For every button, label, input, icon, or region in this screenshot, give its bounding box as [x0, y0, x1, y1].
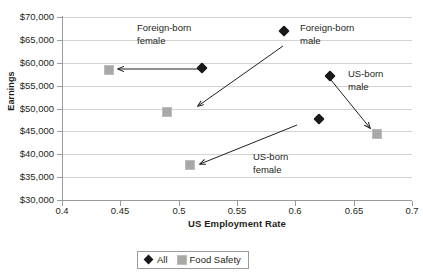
- x-axis-title: US Employment Rate: [62, 218, 412, 229]
- legend-label: Food Safety: [190, 254, 241, 265]
- legend-entry: Food Safety: [177, 254, 241, 265]
- y-axis-tick-label: $65,000: [20, 35, 54, 45]
- annotation-line: Foreign-born: [300, 22, 354, 35]
- y-axis-tick-label: $55,000: [20, 81, 54, 91]
- annotation-line: female: [137, 35, 191, 48]
- annotation-label: Foreign-bornfemale: [137, 22, 191, 47]
- y-axis-tick-label: $60,000: [20, 58, 54, 68]
- gridline: [62, 17, 412, 18]
- gridline: [62, 131, 412, 132]
- y-axis-tick-label: $40,000: [20, 149, 54, 159]
- gridline: [62, 177, 412, 178]
- y-axis-title: Earnings: [6, 56, 16, 126]
- data-point-diamond: [196, 63, 207, 74]
- data-point-square: [104, 65, 114, 75]
- x-axis-tick-label: 0.55: [217, 205, 257, 216]
- y-axis-tick-label: $45,000: [20, 126, 54, 136]
- y-axis-tick-label: $30,000: [20, 195, 54, 205]
- y-axis-tick-label: $50,000: [20, 104, 54, 114]
- x-axis-tick-label: 0.5: [159, 205, 199, 216]
- annotation-label: US-bornfemale: [253, 151, 288, 176]
- x-axis-tick-label: 0.7: [392, 205, 423, 216]
- legend-diamond-icon: [144, 255, 154, 265]
- annotation-arrows: [0, 0, 423, 277]
- gridline: [62, 109, 412, 110]
- x-axis-tick-label: 0.45: [100, 205, 140, 216]
- data-point-square: [372, 129, 382, 139]
- annotation-label: Foreign-bornmale: [300, 22, 354, 47]
- gridline: [62, 63, 412, 64]
- annotation-line: US-born: [348, 68, 383, 81]
- scatter-chart: $30,000$35,000$40,000$45,000$50,000$55,0…: [0, 0, 423, 277]
- annotation-line: male: [300, 35, 354, 48]
- annotation-line: US-born: [253, 151, 288, 164]
- data-point-diamond: [325, 70, 336, 81]
- annotation-line: Foreign-born: [137, 22, 191, 35]
- x-axis-tick-label: 0.6: [275, 205, 315, 216]
- data-point-diamond: [278, 25, 289, 36]
- data-point-square: [162, 107, 172, 117]
- annotation-line: male: [348, 81, 383, 94]
- annotation-label: US-bornmale: [348, 68, 383, 93]
- chart-legend: AllFood Safety: [137, 251, 249, 269]
- foreign-born-male-arrow: [198, 46, 283, 106]
- data-point-diamond: [313, 113, 324, 124]
- legend-entry: All: [145, 254, 168, 265]
- y-axis-line: [62, 16, 63, 201]
- x-axis-line: [62, 200, 412, 201]
- annotation-line: female: [253, 164, 288, 177]
- legend-label: All: [157, 254, 168, 265]
- gridline: [62, 40, 412, 41]
- x-axis-tick-label: 0.65: [334, 205, 374, 216]
- y-axis-tick-label: $35,000: [20, 172, 54, 182]
- data-point-square: [185, 160, 195, 170]
- y-axis-tick-label: $70,000: [20, 12, 54, 22]
- gridline: [62, 154, 412, 155]
- legend-square-icon: [177, 255, 187, 265]
- x-axis-tick-label: 0.4: [42, 205, 82, 216]
